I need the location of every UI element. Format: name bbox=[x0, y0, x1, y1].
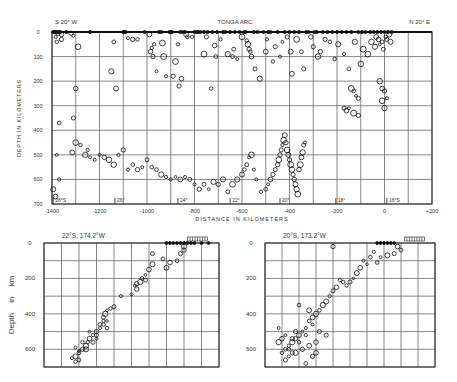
earthquake-point bbox=[155, 168, 159, 172]
y-tick-label: 600 bbox=[246, 346, 257, 352]
y-axis-label: Depth in km bbox=[7, 275, 16, 334]
earthquake-point bbox=[190, 242, 193, 245]
earthquake-point bbox=[304, 362, 308, 366]
earthquake-point bbox=[225, 51, 230, 56]
y-tick-label: 400 bbox=[33, 127, 42, 133]
earthquake-point bbox=[57, 121, 61, 125]
earthquake-point bbox=[224, 30, 227, 33]
earthquake-point bbox=[386, 242, 389, 245]
earthquake-point bbox=[352, 39, 357, 44]
earthquake-point bbox=[230, 181, 236, 187]
earthquake-point bbox=[152, 43, 155, 46]
earthquake-point bbox=[171, 74, 175, 78]
earthquake-point bbox=[150, 165, 154, 169]
earthquake-point bbox=[65, 30, 68, 33]
earthquake-point bbox=[54, 35, 57, 38]
earthquake-point bbox=[190, 35, 193, 38]
earthquake-point bbox=[287, 355, 290, 358]
x-tick-label: -1400 bbox=[45, 208, 59, 214]
earthquake-point bbox=[74, 360, 78, 364]
earthquake-point bbox=[161, 257, 165, 261]
earthquake-point bbox=[267, 183, 270, 186]
earthquake-point bbox=[385, 97, 388, 100]
y-tick-label: 700 bbox=[33, 201, 42, 207]
earthquake-point bbox=[276, 30, 279, 33]
earthquake-point bbox=[338, 279, 341, 282]
earthquake-point bbox=[164, 75, 167, 78]
earthquake-point bbox=[318, 308, 322, 312]
y-tick-label: 0 bbox=[28, 240, 32, 246]
earthquake-point bbox=[124, 30, 127, 33]
earthquake-point bbox=[326, 30, 329, 33]
earthquake-point bbox=[173, 59, 179, 65]
earthquake-point bbox=[357, 30, 360, 33]
earthquake-point bbox=[144, 278, 148, 282]
earthquake-point bbox=[372, 250, 375, 253]
earthquake-point bbox=[347, 107, 350, 110]
earthquake-point bbox=[395, 244, 400, 249]
earthquake-point bbox=[333, 57, 337, 61]
earthquake-point bbox=[294, 36, 300, 42]
earthquake-point bbox=[160, 40, 166, 46]
earthquake-point bbox=[148, 49, 153, 54]
earthquake-point bbox=[207, 188, 210, 191]
earthquake-point bbox=[345, 30, 348, 33]
earthquake-point bbox=[304, 333, 307, 336]
earthquake-point bbox=[375, 261, 379, 265]
earthquake-point bbox=[256, 30, 259, 33]
figure: 0100200300400500600700-1400-1200-1000-80… bbox=[0, 0, 457, 382]
earthquake-point bbox=[102, 155, 107, 160]
earthquake-point bbox=[170, 30, 173, 33]
earthquake-point bbox=[169, 242, 172, 245]
earthquake-point bbox=[289, 71, 294, 76]
earthquake-point bbox=[347, 67, 351, 71]
earthquake-point bbox=[392, 252, 396, 256]
earthquake-point bbox=[285, 35, 289, 39]
earthquake-point bbox=[297, 162, 303, 168]
earthquake-point bbox=[211, 30, 214, 33]
x-tick-label: +200 bbox=[426, 208, 438, 214]
x-axis-label: DISTANCE IN KILOMETERS bbox=[195, 216, 288, 222]
earthquake-point bbox=[51, 187, 56, 192]
earthquake-point bbox=[293, 182, 298, 187]
earthquake-point bbox=[155, 70, 158, 73]
earthquake-point bbox=[257, 76, 262, 81]
earthquake-point bbox=[299, 155, 304, 160]
earthquake-point bbox=[131, 163, 135, 167]
earthquake-point bbox=[269, 30, 272, 33]
earthquake-point bbox=[354, 271, 359, 276]
earthquake-point bbox=[93, 158, 96, 161]
earthquake-point bbox=[288, 30, 291, 33]
earthquake-point bbox=[365, 51, 371, 57]
earthquake-point bbox=[309, 35, 313, 39]
latitude-marker: 20° bbox=[282, 197, 290, 203]
earthquake-point bbox=[335, 30, 338, 33]
earthquake-point bbox=[236, 58, 239, 61]
earthquake-point bbox=[311, 323, 314, 326]
y-tick-label: 400 bbox=[246, 311, 257, 317]
earthquake-point bbox=[91, 340, 95, 344]
earthquake-point bbox=[390, 30, 393, 33]
earthquake-point bbox=[164, 175, 167, 178]
earthquake-point bbox=[252, 30, 255, 33]
earthquake-point bbox=[109, 69, 114, 74]
earthquake-point bbox=[282, 133, 287, 138]
earthquake-point bbox=[380, 40, 384, 44]
earthquake-point bbox=[243, 168, 247, 172]
earthquake-point bbox=[238, 30, 241, 33]
y-tick-label: 400 bbox=[25, 311, 36, 317]
chart-title: 20°S, 173.2°W bbox=[283, 232, 327, 239]
earthquake-point bbox=[376, 242, 379, 245]
y-tick-label: 200 bbox=[25, 275, 36, 281]
earthquake-point bbox=[179, 242, 182, 245]
earthquake-point bbox=[81, 340, 85, 344]
earthquake-point bbox=[284, 334, 287, 337]
earthquake-point bbox=[106, 157, 111, 162]
earthquake-point bbox=[277, 327, 280, 330]
earthquake-point bbox=[372, 30, 375, 33]
earthquake-point bbox=[112, 40, 116, 44]
earthquake-point bbox=[356, 96, 360, 100]
x-tick-label: 0 bbox=[383, 208, 386, 214]
earthquake-point bbox=[143, 30, 146, 33]
earthquake-point bbox=[165, 242, 168, 245]
